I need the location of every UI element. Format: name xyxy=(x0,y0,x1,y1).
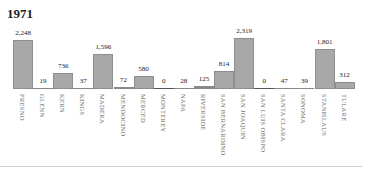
bar xyxy=(294,88,314,90)
value-label: 312 xyxy=(329,71,361,79)
category-label: MONTEREY xyxy=(160,94,167,133)
divider xyxy=(0,166,362,167)
bar-group: 125RIVERSIDE xyxy=(194,0,212,160)
bar-group: 72MENDOCINO xyxy=(114,0,132,160)
category-label: SONOMA xyxy=(300,94,307,124)
category-label: MERCED xyxy=(140,94,147,123)
bar-group: 814SAN BERNARDINO xyxy=(214,0,232,160)
bar xyxy=(214,71,234,89)
bar-group: 19GLENN xyxy=(33,0,51,160)
bar-group: 1,801STANISLAUS xyxy=(315,0,333,160)
bar-chart: 2,248FRESNO19GLENN736KERN37KINGS1,596MAD… xyxy=(13,0,363,160)
bar-group: 312TULARE xyxy=(335,0,353,160)
category-label: GLENN xyxy=(39,94,46,118)
bar xyxy=(154,88,174,89)
category-label: MADERA xyxy=(99,94,106,124)
category-label: FRESNO xyxy=(19,94,26,121)
category-label: SAN BERNARDINO xyxy=(220,94,227,155)
bar xyxy=(335,82,355,89)
category-label: SAN LUIS OBISPO xyxy=(260,94,267,152)
bar xyxy=(174,88,194,90)
bar-group: 37KINGS xyxy=(73,0,91,160)
bar xyxy=(33,88,53,90)
bar xyxy=(315,49,335,89)
category-label: NAPA xyxy=(180,94,187,112)
bar xyxy=(274,88,294,90)
bar xyxy=(73,88,93,90)
category-label: KINGS xyxy=(79,94,86,115)
category-label: TULARE xyxy=(341,94,348,121)
category-label: KERN xyxy=(59,94,66,113)
bar xyxy=(254,88,274,89)
category-label: SANTA CLARA xyxy=(280,94,287,142)
category-label: STANISLAUS xyxy=(321,94,328,136)
category-label: RIVERSIDE xyxy=(200,94,207,131)
bar-group: 39SONOMA xyxy=(294,0,312,160)
bar xyxy=(194,86,214,89)
category-label: SAN JOAQUIN xyxy=(240,94,247,140)
category-label: MENDOCINO xyxy=(120,94,127,136)
bar xyxy=(114,87,134,89)
